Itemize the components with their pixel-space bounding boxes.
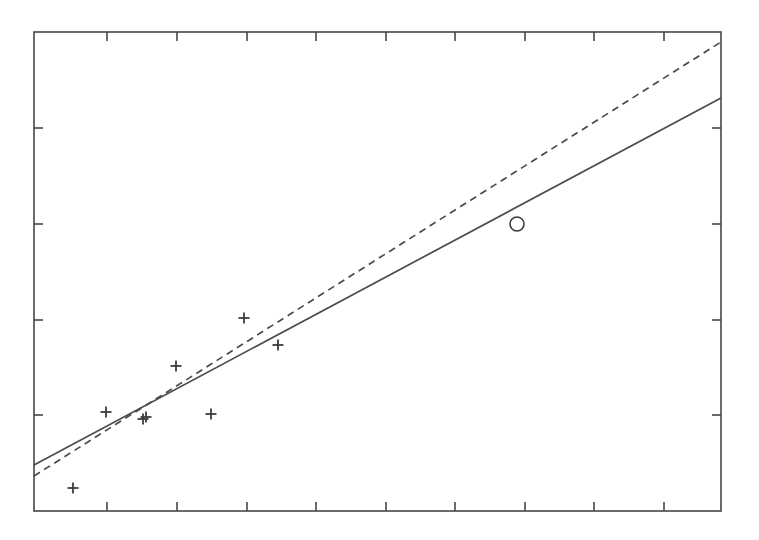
figure-background [0, 0, 759, 540]
plot-canvas [0, 0, 759, 540]
chart-figure [0, 0, 759, 540]
